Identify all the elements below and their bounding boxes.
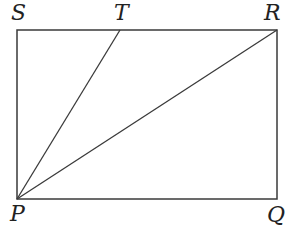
label-R: R <box>263 0 281 25</box>
label-S: S <box>11 0 26 25</box>
label-Q: Q <box>267 202 285 227</box>
segment-PR <box>17 30 277 199</box>
segment-PT <box>17 30 120 199</box>
label-T: T <box>114 0 131 25</box>
geometry-diagram: S T R P Q <box>0 0 290 227</box>
label-P: P <box>9 201 26 226</box>
